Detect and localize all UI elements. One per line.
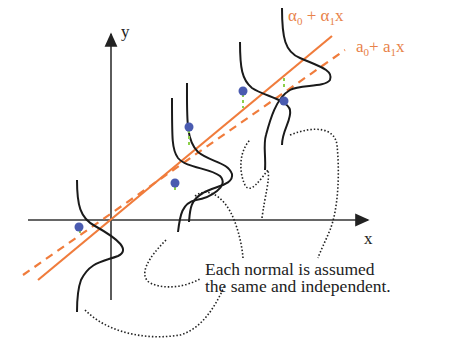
normal-curve-1 [77,180,123,312]
data-point-4 [239,87,248,96]
pointer-curve-3 [195,192,243,258]
x-axis-label: x [364,229,373,249]
pointer-curve-2 [145,240,200,287]
data-point-2 [171,179,180,188]
caption: Each normal is assumed the same and inde… [205,261,391,295]
data-point-5 [280,97,289,106]
pointer-curve-5 [290,129,338,258]
normal-curve-3 [172,98,223,232]
data-point-3 [185,123,194,132]
data-point-1 [75,223,84,232]
true-line-label: α0 + α1x [288,6,343,27]
data-points [75,87,289,232]
true-regression-line [38,36,332,280]
pointer-curve-1 [85,285,225,337]
y-axis-label: y [121,22,130,42]
estimated-line-label: a0+ a1x [356,37,404,58]
normal-curve-5 [240,42,290,145]
caption-line-2: the same and independent. [205,278,391,295]
normal-curve-4 [265,8,331,170]
